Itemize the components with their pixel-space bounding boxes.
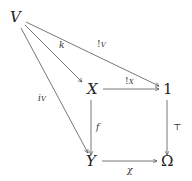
node-omega: Ω [161,154,173,169]
arrow-bang-v [26,22,159,86]
node-y: Y [86,154,96,169]
label-top: ⊤ [173,123,181,132]
label-f: f [96,123,99,132]
node-terminal-one: 1 [163,82,173,97]
label-k: k [59,41,64,50]
label-bang-x-sub: X [129,78,134,86]
node-x: X [87,82,98,97]
node-v: V [10,10,21,25]
label-bang-v: !V [97,40,106,49]
label-i-v: iV [38,94,46,103]
arrow-k [25,25,82,82]
label-bang-v-sub: V [101,41,106,49]
label-chi: χ [127,166,132,175]
label-bang-x: !X [125,77,134,86]
label-i-v-sub: V [41,95,46,103]
